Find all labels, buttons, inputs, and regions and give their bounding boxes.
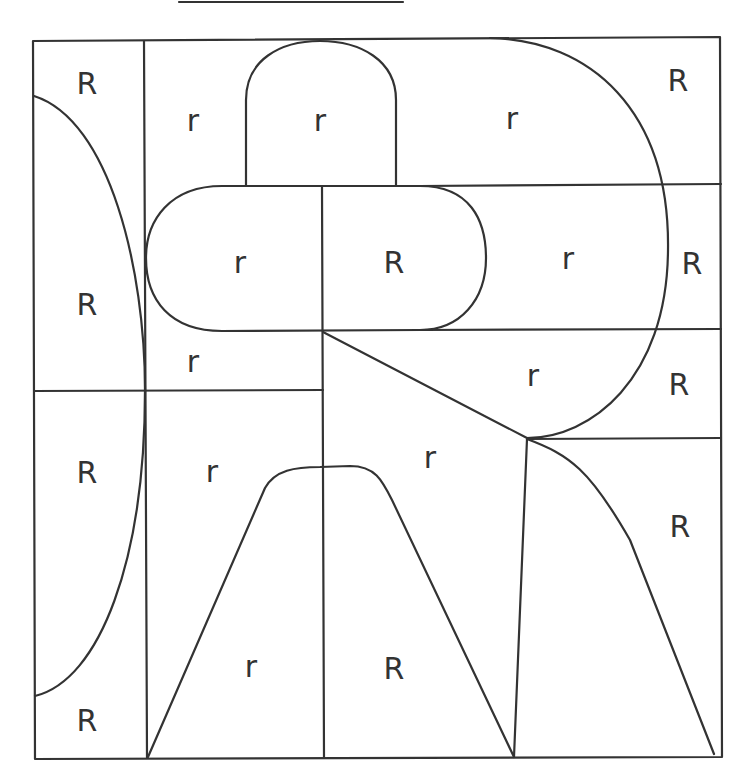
label-left-mid: R bbox=[77, 287, 98, 322]
pill-shape bbox=[146, 186, 486, 331]
label-top-dome: r bbox=[314, 103, 327, 138]
label-left-bottom: R bbox=[77, 703, 98, 738]
label-top-col2: r bbox=[187, 103, 200, 138]
hill-curve bbox=[148, 466, 514, 757]
outer-frame bbox=[33, 37, 722, 759]
right-slope-curve bbox=[527, 439, 714, 754]
label-top-big-curve: r bbox=[506, 101, 519, 136]
label-mid-right: R bbox=[682, 246, 703, 281]
label-pill-right: R bbox=[384, 245, 405, 280]
big-curve bbox=[490, 38, 668, 438]
region-diagram: R R R R r r r R r R r R r r R r r R r R bbox=[0, 0, 740, 779]
label-col2-strip: r bbox=[187, 344, 200, 379]
divider-row1-right bbox=[420, 184, 721, 186]
label-top-right: R bbox=[668, 63, 689, 98]
region-labels: R R R R r r r R r R r R r r R r r R r R bbox=[77, 63, 703, 738]
label-hill-right: R bbox=[384, 651, 405, 686]
divider-row3-right bbox=[527, 438, 721, 439]
label-hill-left: r bbox=[245, 649, 258, 684]
wedge-diagonal bbox=[323, 332, 527, 438]
divider-row2-right bbox=[420, 329, 721, 330]
left-arc bbox=[34, 96, 145, 696]
label-left-top: R bbox=[77, 66, 98, 101]
label-left-lower: R bbox=[77, 455, 98, 490]
label-right-band: R bbox=[669, 367, 690, 402]
label-pill-left: r bbox=[234, 245, 247, 280]
label-wedge: r bbox=[527, 358, 540, 393]
label-mid-curve: r bbox=[562, 241, 575, 276]
label-lower-center: r bbox=[424, 440, 437, 475]
divider-center bbox=[322, 187, 324, 758]
label-lower-col2: r bbox=[206, 454, 219, 489]
slant-divider bbox=[514, 439, 527, 757]
divider-left-mid bbox=[34, 390, 323, 391]
label-lower-right: R bbox=[670, 509, 691, 544]
